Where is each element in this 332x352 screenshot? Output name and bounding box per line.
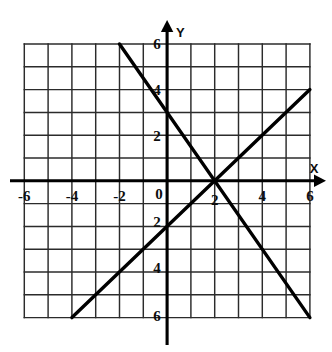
y-tick-label--6: 6 <box>153 308 161 324</box>
y-tick-label-6: 6 <box>153 36 161 52</box>
coordinate-plane: Y X 0 -6 -4 -2 2 4 6 6 4 2 2 4 6 <box>0 0 332 352</box>
y-tick-label--2: 2 <box>153 214 161 230</box>
y-tick-label--4: 4 <box>153 260 161 276</box>
y-tick-label-2: 2 <box>153 128 161 144</box>
x-tick-label--2: -2 <box>113 188 126 204</box>
x-tick-label-6: 6 <box>306 188 314 204</box>
x-tick-label--4: -4 <box>66 188 79 204</box>
y-tick-label-4: 4 <box>153 82 161 98</box>
x-axis-label: X <box>310 161 319 176</box>
x-tick-label--6: -6 <box>18 188 31 204</box>
y-axis-label: Y <box>176 25 185 40</box>
x-tick-label-4: 4 <box>259 188 267 204</box>
origin-label: 0 <box>155 186 163 202</box>
graph-screenshot: Y X 0 -6 -4 -2 2 4 6 6 4 2 2 4 6 <box>0 0 332 352</box>
x-tick-label-2: 2 <box>211 192 219 208</box>
